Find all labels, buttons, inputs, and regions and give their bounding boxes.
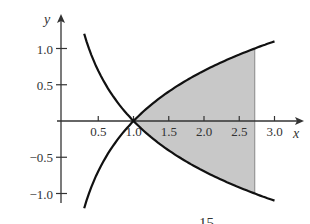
figure-number: 15 bbox=[199, 215, 214, 224]
x-tick-label: 0.5 bbox=[90, 124, 106, 139]
x-axis-label: x bbox=[292, 126, 300, 141]
x-tick-label: 2.5 bbox=[231, 124, 247, 139]
x-tick-label: 3.0 bbox=[266, 124, 282, 139]
y-tick-label: −1.0 bbox=[29, 187, 53, 202]
chart: x y 0.51.01.52.02.53.0 1.00.5−0.5−1.0 15 bbox=[0, 0, 310, 224]
y-tick-label: 1.0 bbox=[37, 42, 53, 57]
y-tick-label: −0.5 bbox=[29, 150, 53, 165]
y-axis-label: y bbox=[42, 12, 51, 27]
x-tick-label: 1.5 bbox=[161, 124, 177, 139]
x-tick-label: 2.0 bbox=[196, 124, 212, 139]
y-tick-label: 0.5 bbox=[37, 78, 53, 93]
